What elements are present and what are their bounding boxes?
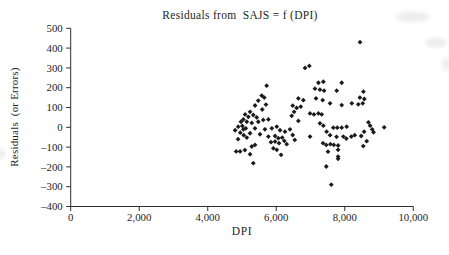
data-point [331, 143, 336, 148]
data-point [256, 98, 261, 103]
data-point [308, 134, 313, 139]
data-point [266, 117, 271, 122]
data-point [307, 64, 312, 69]
data-point [294, 105, 299, 110]
data-point [344, 124, 349, 129]
data-point [312, 112, 317, 117]
data-point [278, 128, 283, 133]
data-point [335, 125, 340, 130]
data-points [233, 40, 387, 187]
y-tick-label: 300 [46, 62, 62, 74]
data-point [358, 40, 363, 45]
data-point [248, 109, 253, 114]
data-point [256, 119, 261, 124]
data-point [279, 152, 284, 157]
x-tick-label: 4,000 [196, 211, 220, 223]
data-point [321, 79, 326, 84]
data-point [334, 88, 339, 93]
data-point [316, 80, 321, 85]
data-point [362, 129, 367, 134]
data-point [269, 140, 274, 145]
data-point [233, 128, 238, 133]
data-point [318, 121, 323, 126]
y-tick-label: –100 [40, 141, 63, 153]
data-point [360, 101, 365, 106]
data-point [324, 129, 329, 134]
plot-canvas: 5004003002001000–100–200–300–40002,0004,… [0, 0, 449, 255]
scan-artifact [425, 38, 447, 47]
data-point [253, 126, 258, 131]
data-point [339, 80, 344, 85]
data-point [320, 98, 325, 103]
data-point [248, 152, 253, 157]
data-point [244, 119, 249, 124]
data-point [264, 102, 269, 107]
x-tick-label: 2,000 [127, 211, 151, 223]
data-point [263, 127, 268, 132]
data-point [328, 133, 333, 138]
data-point [361, 144, 366, 149]
data-point [243, 148, 248, 153]
data-point [321, 123, 326, 128]
y-tick-label: 400 [46, 42, 62, 54]
data-point [261, 118, 266, 123]
data-point [357, 95, 362, 100]
data-point [260, 107, 265, 112]
data-point [349, 101, 354, 106]
data-point [382, 125, 387, 130]
scan-artifact [442, 58, 449, 71]
data-point [251, 161, 256, 166]
data-point [283, 129, 288, 134]
chart-title: Residuals from SAJS = f (DPI) [100, 9, 380, 21]
data-point [298, 104, 303, 109]
y-tick-label: 0 [57, 121, 62, 133]
y-tick-label: –200 [40, 161, 63, 173]
data-point [296, 96, 301, 101]
data-point [290, 133, 295, 138]
data-point [249, 121, 254, 126]
data-point [254, 115, 259, 120]
data-point [328, 142, 333, 147]
y-tick-label: –400 [40, 200, 63, 212]
scan-artifact [396, 12, 430, 22]
data-point [238, 130, 243, 135]
data-point [364, 139, 369, 144]
data-point [322, 88, 327, 93]
y-tick-label: 100 [46, 101, 62, 113]
data-point [336, 147, 341, 152]
data-point [308, 111, 313, 116]
axes-lines [71, 28, 414, 206]
data-point [264, 83, 269, 88]
data-point [359, 134, 364, 139]
data-point [326, 149, 331, 154]
y-tick-label: 500 [46, 22, 62, 34]
x-tick-label: 6,000 [264, 211, 288, 223]
data-point [324, 164, 329, 169]
data-point [238, 149, 243, 154]
x-tick-label: 8,000 [333, 211, 357, 223]
data-point [313, 86, 318, 91]
data-point [314, 96, 319, 101]
data-point [266, 134, 271, 139]
data-point [251, 113, 256, 118]
data-point [292, 138, 297, 143]
y-axis-ticks: 5004003002001000–100–200–300–400 [40, 22, 71, 212]
scatter-plot: 5004003002001000–100–200–300–40002,0004,… [0, 0, 449, 255]
data-point [248, 131, 253, 136]
data-point [328, 101, 333, 106]
data-point [356, 102, 361, 107]
x-axis-ticks: 02,0004,0006,0008,00010,000 [68, 207, 428, 224]
data-point [269, 126, 274, 131]
data-point [288, 127, 293, 132]
data-point [253, 103, 258, 108]
data-point [236, 137, 241, 142]
data-point [301, 98, 306, 103]
y-tick-label: –300 [40, 180, 63, 192]
y-tick-label: 200 [46, 81, 62, 93]
data-point [336, 143, 341, 148]
data-point [339, 125, 344, 130]
data-point [303, 66, 308, 71]
data-point [296, 119, 301, 124]
data-point [361, 89, 366, 94]
data-point [339, 103, 344, 108]
